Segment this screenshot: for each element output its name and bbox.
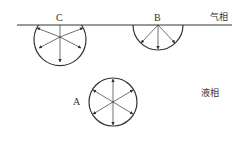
- label-b: B: [154, 13, 161, 23]
- label-gas-phase: 气相: [210, 13, 228, 22]
- bubble-c: [34, 25, 86, 66]
- label-liquid-phase: 液相: [201, 89, 219, 98]
- bubble-b: [133, 25, 183, 50]
- label-a: A: [73, 97, 80, 107]
- bubble-a: [89, 78, 137, 126]
- label-c: C: [56, 13, 63, 23]
